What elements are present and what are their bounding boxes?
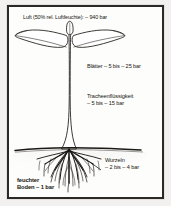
label-soil: feuchter Boden – 1 bar <box>17 177 54 191</box>
label-tracheal-value: – 5 bis – 15 bar <box>87 100 133 107</box>
label-leaves-text: Blätter – 5 bis – 25 bar <box>87 63 141 69</box>
label-air-text: Luft (50% rel. Luftfeuchte): – 940 bar <box>23 14 107 20</box>
figure-frame: Luft (50% rel. Luftfeuchte): – 940 bar B… <box>7 5 164 199</box>
label-air: Luft (50% rel. Luftfeuchte): – 940 bar <box>23 14 107 20</box>
leaf-right <box>72 30 125 47</box>
label-roots-value: – 2 bis – 4 bar <box>105 164 139 171</box>
label-roots: Wurzeln – 2 bis – 4 bar <box>105 157 139 170</box>
label-tracheal-fluid: Tracheenflüssigkeit – 5 bis – 15 bar <box>87 93 133 106</box>
label-soil-value: Boden – 1 bar <box>17 184 54 191</box>
label-leaves: Blätter – 5 bis – 25 bar <box>87 63 141 70</box>
leaf-left <box>15 30 68 47</box>
label-soil-title: feuchter <box>17 177 54 184</box>
label-tracheal-title: Tracheenflüssigkeit <box>87 93 133 100</box>
label-roots-title: Wurzeln <box>105 157 139 164</box>
figure-container: Luft (50% rel. Luftfeuchte): – 940 bar B… <box>0 0 171 206</box>
